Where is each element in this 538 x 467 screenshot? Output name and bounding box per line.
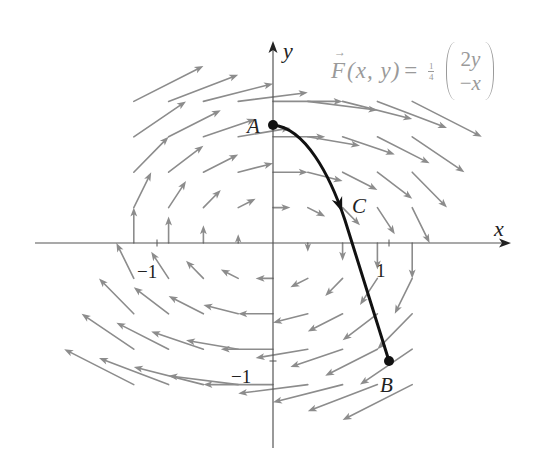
field-arrow-shaft: [295, 278, 308, 284]
field-arrowhead-icon: [177, 101, 186, 109]
field-arrow: [203, 190, 220, 208]
field-arrow-shaft: [397, 278, 412, 309]
field-arrow-shaft: [412, 172, 443, 204]
field-arrow-shaft: [412, 137, 460, 169]
field-arrow: [343, 137, 395, 155]
field-arrow-shaft: [104, 360, 169, 385]
bottom-var: x: [472, 71, 481, 95]
field-arrow-shaft: [313, 385, 378, 410]
field-arrow-shaft: [169, 77, 234, 102]
field-arrow: [134, 137, 169, 172]
field-arrow: [325, 278, 342, 296]
field-arrow: [395, 278, 412, 313]
field-arrow: [186, 338, 238, 349]
field-arrow-shaft: [238, 129, 285, 137]
field-arrow-shaft: [134, 68, 199, 101]
field-arrow-shaft: [377, 101, 442, 126]
field-arrow-shaft: [308, 208, 321, 214]
field-arrow: [116, 323, 168, 350]
field-arrow-shaft: [238, 93, 302, 101]
field-arrow-shaft: [203, 157, 233, 172]
vector-entries: 2y −x: [455, 47, 485, 95]
field-arrow: [203, 304, 238, 314]
field-arrowhead-icon: [455, 164, 464, 172]
field-arrow: [134, 66, 204, 101]
field-arrow: [308, 314, 343, 332]
field-arrow-shaft: [278, 314, 308, 322]
field-arrow-shaft: [308, 101, 372, 109]
field-arrow: [256, 275, 273, 282]
field-arrow: [238, 199, 255, 208]
field-arrow: [116, 243, 133, 278]
vector-bottom-entry: −x: [460, 71, 481, 95]
field-arrow: [290, 349, 342, 367]
field-arrow-shaft: [174, 376, 238, 384]
point-b-marker: [384, 356, 394, 366]
field-arrow-shaft: [203, 121, 250, 137]
field-arrow-shaft: [377, 172, 408, 195]
axes: [35, 41, 511, 448]
field-arrow: [169, 146, 204, 173]
top-coef: 2: [460, 47, 471, 71]
field-arrow-shaft: [329, 278, 343, 292]
coefficient-fraction: 1 4: [428, 62, 434, 81]
field-arrow-shaft: [238, 165, 268, 173]
point-c-label: C: [352, 194, 367, 218]
point-b-label: B: [380, 373, 393, 397]
field-symbol: F →: [331, 58, 345, 84]
field-arrow-shaft: [261, 349, 308, 357]
point-a-label: A: [245, 114, 260, 138]
field-arrow: [130, 208, 137, 243]
field-arrow: [221, 346, 273, 353]
field-arrow: [305, 243, 311, 252]
right-paren-icon: [485, 42, 494, 100]
field-arrow: [151, 331, 203, 349]
field-arrow: [169, 296, 204, 314]
field-arrow-shaft: [343, 172, 373, 187]
field-arrow-shaft: [412, 208, 427, 239]
field-arrow: [82, 314, 134, 349]
field-arrow-shaft: [330, 349, 377, 373]
y-tick-label-neg1: −1: [231, 366, 251, 387]
field-arrow-shaft: [169, 186, 183, 208]
field-arrow-shaft: [203, 194, 217, 208]
field-arrow-shaft: [103, 282, 134, 314]
field-arrow-shaft: [134, 104, 182, 136]
field-arrow-shaft: [238, 201, 251, 207]
field-arrow: [221, 270, 238, 279]
x-tick-label-neg1: −1: [137, 261, 157, 282]
field-symbol-letter: F: [331, 58, 345, 83]
field-arrow-shaft: [134, 141, 165, 173]
field-arrow: [377, 172, 412, 199]
field-arrow-shaft: [244, 385, 308, 393]
field-arrow: [412, 208, 429, 243]
left-paren-icon: [446, 42, 455, 100]
field-arrow-shaft: [119, 248, 134, 279]
field-arrow: [412, 172, 447, 207]
field-arrow-shaft: [190, 265, 204, 279]
field-arrow-shaft: [173, 299, 203, 314]
x-axis-label: x: [493, 216, 504, 241]
field-arrow: [273, 204, 290, 211]
field-arrow: [134, 172, 151, 207]
field-arrow-shaft: [381, 314, 412, 346]
field-arrowhead-icon: [151, 252, 159, 261]
field-arrow: [203, 155, 238, 173]
point-a-marker: [268, 120, 278, 130]
vector-arrow-icon: →: [334, 45, 346, 60]
field-arrow: [343, 172, 378, 190]
fraction-numerator: 1: [429, 62, 434, 70]
field-arrow: [235, 234, 241, 243]
equals-sign: =: [404, 58, 417, 84]
field-arrow-shaft: [347, 314, 378, 337]
field-arrow: [200, 225, 207, 243]
field-formula: F → (x, y) = 1 4 2y −x: [331, 41, 494, 101]
field-arrow: [308, 208, 325, 217]
vector-top-entry: 2y: [460, 47, 480, 71]
field-arrow: [290, 278, 307, 287]
bottom-sign: −: [460, 71, 472, 95]
field-arrowhead-icon: [178, 181, 186, 190]
field-arrow: [339, 243, 346, 261]
top-var: y: [471, 47, 480, 71]
field-arrow: [165, 216, 172, 243]
